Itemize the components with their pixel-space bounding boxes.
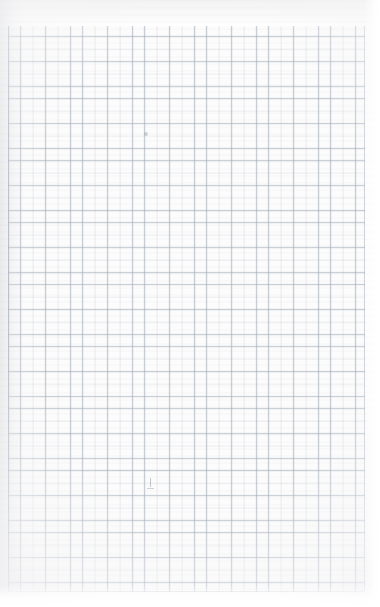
grid-outer-border [8,24,365,592]
graph-paper-grid [8,24,365,592]
paper-sheet [0,0,380,607]
scanned-graph-paper-image [0,0,380,607]
